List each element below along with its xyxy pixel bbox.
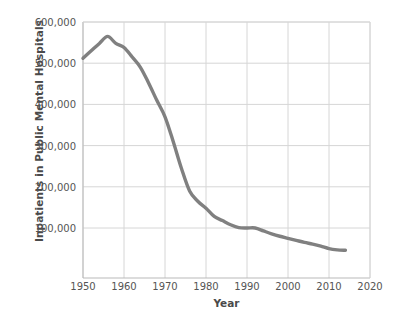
line-chart: Inpatients in Public Mental Hospitals 10… [0, 0, 400, 322]
gridlines [83, 22, 370, 278]
data-series-line [83, 36, 345, 250]
axis-frame [83, 22, 370, 278]
plot-area [0, 0, 400, 322]
